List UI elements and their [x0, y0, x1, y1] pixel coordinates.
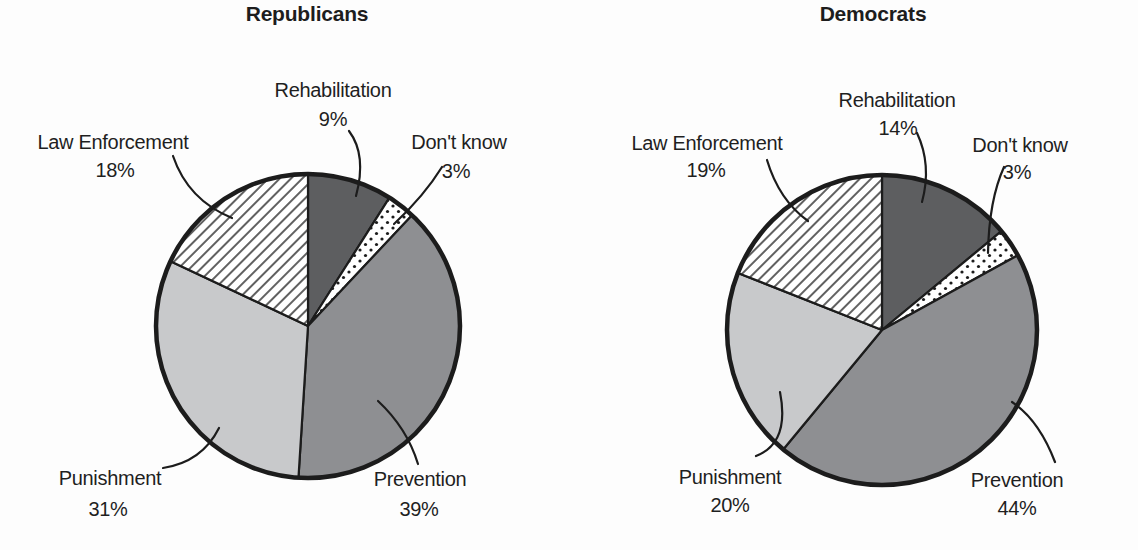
- pie-slice-value-don-t-know: 3%: [442, 160, 471, 182]
- pie-slice-label-rehabilitation: Rehabilitation: [275, 79, 392, 101]
- figure-canvas: Republicans Rehabilitation9%Don't know3%…: [0, 0, 1138, 550]
- pie-slice-value-prevention: 44%: [997, 497, 1037, 519]
- pie-svg-republicans: Rehabilitation9%Don't know3%Prevention39…: [0, 0, 569, 550]
- pie-slice-value-punishment: 20%: [710, 494, 750, 516]
- pie-slice-label-prevention: Prevention: [374, 468, 467, 490]
- pie-slice-value-rehabilitation: 14%: [878, 117, 918, 139]
- pie-slice-label-rehabilitation: Rehabilitation: [839, 89, 956, 111]
- pie-slice-label-punishment: Punishment: [59, 467, 162, 489]
- pie-slice-label-don-t-know: Don't know: [411, 131, 507, 153]
- pie-slice-label-law-enforcement: Law Enforcement: [37, 131, 189, 153]
- pie-slice-label-law-enforcement: Law Enforcement: [631, 132, 783, 154]
- pie-slice-value-prevention: 39%: [399, 498, 439, 520]
- pie-slice-value-punishment: 31%: [88, 498, 128, 520]
- pie-slice-label-don-t-know: Don't know: [972, 134, 1068, 156]
- pie-svg-democrats: Rehabilitation14%Don't know3%Prevention4…: [569, 0, 1138, 550]
- leader-line-prevention: [1012, 402, 1055, 462]
- pie-slice-value-don-t-know: 3%: [1003, 161, 1032, 183]
- pie-slice-label-prevention: Prevention: [971, 469, 1064, 491]
- pie-slice-label-punishment: Punishment: [679, 466, 782, 488]
- pie-chart-democrats: Democrats Rehabilitation14%Don't know3%P…: [569, 0, 1138, 550]
- pie-chart-republicans: Republicans Rehabilitation9%Don't know3%…: [0, 0, 569, 550]
- pie-slice-value-law-enforcement: 18%: [95, 159, 135, 181]
- pie-slice-value-rehabilitation: 9%: [319, 108, 348, 130]
- pie-slice-value-law-enforcement: 19%: [686, 159, 726, 181]
